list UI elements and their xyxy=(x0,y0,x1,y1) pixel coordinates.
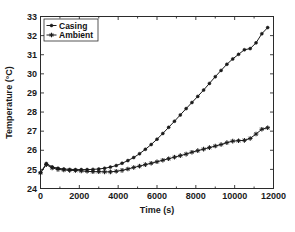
data-point-marker xyxy=(243,48,246,51)
data-point-marker xyxy=(167,126,170,129)
data-point-marker xyxy=(85,169,90,174)
data-point-marker xyxy=(254,132,259,137)
x-tick-label: 8000 xyxy=(186,191,206,201)
data-point-marker xyxy=(161,132,164,135)
data-point-marker xyxy=(255,41,258,44)
data-point-marker xyxy=(126,167,131,172)
data-point-marker xyxy=(132,156,135,159)
data-point-marker xyxy=(91,169,96,174)
data-point-marker xyxy=(144,148,147,151)
data-point-marker xyxy=(137,164,142,169)
legend-label-ambient: Ambient xyxy=(59,30,93,40)
data-point-marker xyxy=(126,159,129,162)
data-point-marker xyxy=(208,82,211,85)
data-point-marker xyxy=(56,167,61,172)
data-point-marker xyxy=(138,152,141,155)
y-tick-label: 24 xyxy=(27,184,37,194)
x-tick-label: 6000 xyxy=(147,191,167,201)
data-point-marker xyxy=(220,69,223,72)
y-tick-label: 26 xyxy=(27,145,37,155)
data-point-marker xyxy=(102,170,107,175)
data-point-marker xyxy=(149,161,154,166)
x-axis-title: Time (s) xyxy=(140,205,174,215)
chart-legend: CasingAmbient xyxy=(44,19,98,41)
data-point-marker xyxy=(179,113,182,116)
x-tick-label: 4000 xyxy=(108,191,128,201)
data-point-marker xyxy=(225,63,228,66)
x-tick-label: 0 xyxy=(38,191,43,201)
data-point-marker xyxy=(249,47,252,50)
data-point-marker xyxy=(161,158,166,163)
data-point-marker xyxy=(166,156,171,161)
data-point-marker xyxy=(67,168,72,173)
data-point-marker xyxy=(150,143,153,146)
data-point-marker xyxy=(50,166,55,171)
data-point-marker xyxy=(108,170,113,175)
data-point-marker xyxy=(242,138,247,143)
y-tick-label: 33 xyxy=(27,12,37,22)
data-point-marker xyxy=(62,168,67,173)
y-tick-label: 31 xyxy=(27,50,37,60)
data-point-marker xyxy=(155,159,160,164)
data-point-marker xyxy=(73,168,78,173)
data-point-marker xyxy=(79,169,84,174)
data-point-marker xyxy=(260,32,263,35)
legend-sample-marker xyxy=(49,33,54,38)
data-point-marker xyxy=(178,153,183,158)
data-point-marker xyxy=(96,169,101,174)
x-tick-label: 2000 xyxy=(69,191,89,201)
data-point-marker xyxy=(120,168,125,173)
chart-figure: 020004000600080001000012000 242526272829… xyxy=(0,0,295,232)
data-point-marker xyxy=(237,53,240,56)
data-point-marker xyxy=(131,165,136,170)
data-point-marker xyxy=(236,138,241,143)
data-point-marker xyxy=(114,169,119,174)
data-point-marker xyxy=(195,148,200,153)
y-tick-label: 30 xyxy=(27,69,37,79)
temperature-vs-time-line-chart: 020004000600080001000012000 242526272829… xyxy=(0,0,295,232)
data-point-marker xyxy=(231,57,234,60)
data-point-marker xyxy=(201,147,206,152)
data-point-marker xyxy=(38,171,43,176)
x-tick-label: 12000 xyxy=(261,191,286,201)
data-point-marker xyxy=(121,162,124,165)
y-axis-title: Temperature (°C) xyxy=(4,66,14,138)
data-point-marker xyxy=(248,136,253,141)
y-tick-label: 28 xyxy=(27,107,37,117)
data-point-marker xyxy=(190,150,195,155)
data-point-marker xyxy=(214,75,217,78)
data-point-marker xyxy=(230,139,235,144)
data-point-marker xyxy=(207,145,212,150)
y-tick-label: 32 xyxy=(27,31,37,41)
legend-label-casing: Casing xyxy=(59,21,87,31)
data-point-marker xyxy=(219,142,224,147)
data-point-marker xyxy=(265,125,270,130)
data-point-marker xyxy=(225,140,230,145)
data-point-marker xyxy=(202,89,205,92)
data-point-marker xyxy=(172,155,177,160)
y-tick-label: 29 xyxy=(27,88,37,98)
y-tick-label: 25 xyxy=(27,165,37,175)
data-point-marker xyxy=(103,167,106,170)
data-point-marker xyxy=(185,107,188,110)
data-point-marker xyxy=(156,138,159,141)
data-point-marker xyxy=(115,164,118,167)
data-point-marker xyxy=(109,166,112,169)
legend-sample-marker xyxy=(50,24,53,27)
data-point-marker xyxy=(44,162,49,167)
x-tick-label: 10000 xyxy=(222,191,247,201)
data-point-marker xyxy=(213,144,218,149)
data-point-marker xyxy=(266,26,269,29)
data-point-marker xyxy=(260,127,265,132)
data-point-marker xyxy=(143,162,148,167)
data-point-marker xyxy=(190,101,193,104)
y-tick-label: 27 xyxy=(27,126,37,136)
data-point-marker xyxy=(184,152,189,157)
data-point-marker xyxy=(196,95,199,98)
data-point-marker xyxy=(173,120,176,123)
